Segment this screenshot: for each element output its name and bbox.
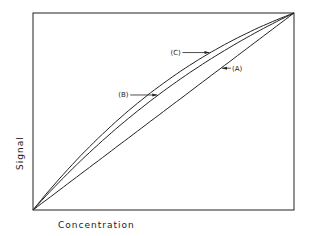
y-axis-label: Signal	[15, 136, 25, 170]
x-axis-label: Concentration	[58, 220, 135, 230]
label-a: (A)	[232, 65, 243, 73]
calibration-diagram: (A)(B)(C) Concentration Signal	[0, 0, 309, 236]
curve-a	[33, 13, 294, 210]
label-c: (C)	[170, 49, 181, 57]
label-b: (B)	[118, 91, 129, 99]
